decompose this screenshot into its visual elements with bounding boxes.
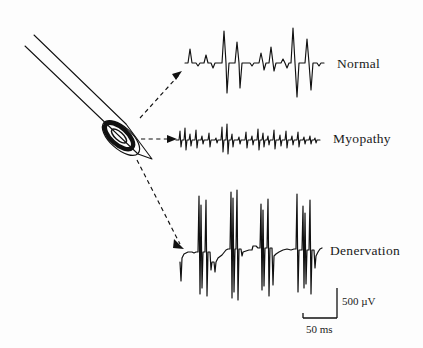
calibration-bar (303, 288, 337, 318)
calibration-label-time: 50 ms (306, 323, 333, 335)
leader-arrows (137, 71, 184, 249)
trace-normal (185, 28, 324, 97)
trace-label-myopathy: Myopathy (333, 131, 391, 147)
needle-bevel-taper (126, 124, 152, 159)
calibration-label-amplitude: 500 µV (342, 295, 376, 307)
needle-shaft-lower-line (25, 46, 138, 154)
concentric-needle-electrode (25, 35, 152, 162)
leader-arrow-denervation (137, 160, 184, 249)
trace-denervation (180, 190, 322, 300)
trace-label-denervation: Denervation (330, 243, 400, 259)
trace-label-normal: Normal (337, 56, 380, 72)
emg-figure: Normal Myopathy Denervation 500 µV 50 ms (0, 0, 423, 348)
needle-shaft-upper-line (34, 35, 126, 124)
leader-arrow-normal (140, 71, 182, 118)
trace-myopathy (176, 124, 320, 154)
leader-arrow-myopathy (141, 135, 177, 143)
